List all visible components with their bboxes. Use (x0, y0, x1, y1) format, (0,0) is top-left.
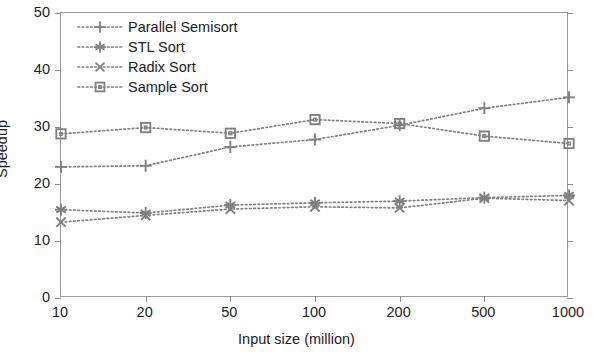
y-tick-label: 30 (34, 118, 50, 134)
marker-plus (563, 91, 575, 103)
marker-plus (394, 119, 406, 131)
legend-marker-asterisk-icon (76, 38, 124, 56)
y-tick-mark (55, 184, 61, 185)
marker-asterisk (55, 204, 67, 216)
chart-legend: Parallel SemisortSTL SortRadix SortSampl… (76, 18, 256, 96)
series-line (61, 120, 569, 144)
marker-square (564, 139, 573, 148)
y-tick-mark (55, 127, 61, 128)
marker-square (480, 131, 489, 140)
marker-plus (224, 141, 236, 153)
series-radix-sort (56, 194, 573, 227)
legend-label: Sample Sort (124, 79, 208, 95)
legend-item-radix-sort[interactable]: Radix Sort (76, 58, 256, 76)
marker-cross (480, 194, 489, 203)
x-tick-label: 500 (471, 304, 495, 320)
marker-plus (55, 161, 67, 173)
series-sample-sort (56, 115, 573, 148)
legend-marker-cross-icon (76, 58, 124, 76)
series-line (61, 198, 569, 222)
marker-asterisk (478, 192, 490, 204)
marker-cross (141, 211, 150, 220)
x-tick-mark (315, 296, 316, 302)
marker-asterisk (224, 199, 236, 211)
x-tick-label: 20 (137, 304, 153, 320)
marker-square (395, 119, 404, 128)
y-tick-label: 20 (34, 175, 50, 191)
y-tick-mark-right (567, 70, 573, 71)
legend-label: STL Sort (124, 39, 185, 55)
x-tick-mark (146, 296, 147, 302)
x-axis-title: Input size (million) (0, 331, 593, 347)
marker-asterisk (94, 41, 105, 52)
marker-plus (140, 160, 152, 172)
marker-square (310, 115, 319, 124)
y-tick-mark (55, 241, 61, 242)
marker-plus (309, 134, 321, 146)
series-stl-sort (55, 189, 575, 219)
marker-cross (564, 196, 573, 205)
legend-label: Parallel Semisort (124, 19, 238, 35)
marker-asterisk (140, 207, 152, 219)
legend-item-stl-sort[interactable]: STL Sort (76, 38, 256, 56)
series-parallel-semisort (55, 91, 575, 173)
x-tick-label: 100 (302, 304, 326, 320)
y-tick-mark (55, 13, 61, 14)
y-tick-mark (55, 298, 61, 299)
y-axis-tick-labels: 01020304050 (0, 0, 56, 357)
y-axis-title: Speedup (0, 120, 10, 178)
x-tick-mark (484, 296, 485, 302)
marker-plus (478, 102, 490, 114)
series-line (61, 97, 569, 167)
marker-square (56, 129, 65, 138)
marker-asterisk (394, 195, 406, 207)
y-tick-label: 40 (34, 61, 50, 77)
legend-marker-plus-icon (76, 18, 124, 36)
x-tick-label: 50 (221, 304, 237, 320)
legend-item-sample-sort[interactable]: Sample Sort (76, 78, 256, 96)
y-tick-mark-right (567, 298, 573, 299)
y-tick-mark-right (567, 127, 573, 128)
x-tick-label: 1000 (552, 304, 584, 320)
y-tick-label: 50 (34, 4, 50, 20)
legend-marker-square-icon (76, 78, 124, 96)
marker-square (226, 129, 235, 138)
marker-cross (395, 203, 404, 212)
x-tick-label: 10 (52, 304, 68, 320)
y-tick-mark (55, 70, 61, 71)
series-line (61, 195, 569, 213)
y-tick-label: 10 (34, 232, 50, 248)
y-tick-mark-right (567, 184, 573, 185)
speedup-chart-figure: 01020304050 Speedup 1020501002005001000 … (0, 0, 593, 357)
y-tick-label: 0 (42, 289, 50, 305)
marker-asterisk (563, 189, 575, 201)
x-tick-label: 200 (387, 304, 411, 320)
x-tick-mark (230, 296, 231, 302)
x-tick-mark (400, 296, 401, 302)
y-tick-mark-right (567, 13, 573, 14)
marker-cross (310, 202, 319, 211)
marker-cross (226, 204, 235, 213)
legend-label: Radix Sort (124, 59, 196, 75)
marker-square (141, 123, 150, 132)
marker-cross (56, 218, 65, 227)
marker-asterisk (309, 197, 321, 209)
y-tick-mark-right (567, 241, 573, 242)
legend-item-parallel-semisort[interactable]: Parallel Semisort (76, 18, 256, 36)
marker-plus (94, 21, 105, 32)
